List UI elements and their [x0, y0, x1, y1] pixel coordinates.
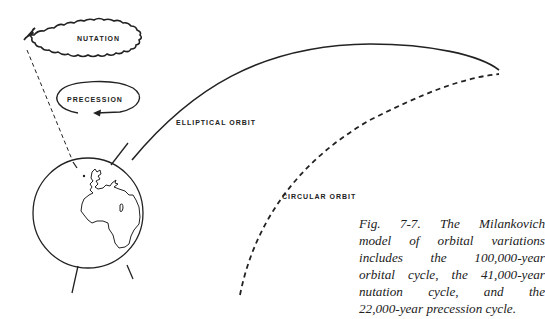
caption-line: model of orbital variations: [359, 232, 545, 249]
caption-line: orbital cycle, the 41,000-year: [359, 266, 545, 283]
caption-line: Fig. 7-7. The Milankovich: [359, 215, 545, 232]
circular-orbit-label: CIRCULAR ORBIT: [282, 193, 356, 200]
axis-line-top-right: [111, 143, 128, 165]
caption-line: nutation cycle, and the: [359, 283, 545, 300]
precession-label: PRECESSION: [67, 96, 123, 103]
figure-caption: Fig. 7-7. The Milankovich model of orbit…: [359, 215, 545, 317]
caption-line: 22,000-year precession cycle.: [359, 300, 545, 317]
axis-line-bottom-left: [72, 266, 78, 293]
caption-line: includes the 100,000-year: [359, 249, 545, 266]
elliptical-orbit-label: ELLIPTICAL ORBIT: [176, 119, 256, 126]
elliptical-orbit-curve: [132, 44, 499, 160]
axis-line-dashed: [27, 50, 73, 162]
earth-globe: [33, 143, 143, 293]
nutation-label: NUTATION: [77, 35, 120, 42]
arrowhead-icon: [93, 110, 101, 117]
axis-line-bottom-right: [127, 265, 133, 279]
